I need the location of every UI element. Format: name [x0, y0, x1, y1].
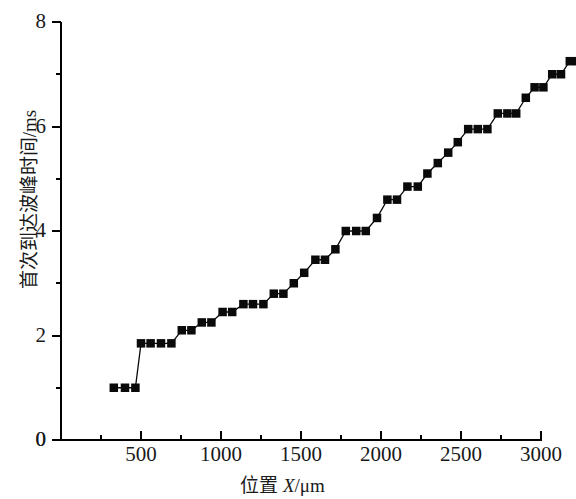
data-point	[342, 227, 351, 236]
data-point	[146, 339, 155, 348]
data-point	[393, 195, 402, 204]
data-point	[187, 326, 196, 335]
data-point	[414, 182, 423, 191]
data-point	[566, 57, 575, 66]
data-point	[311, 255, 320, 263]
data-point	[483, 125, 492, 134]
data-point	[464, 125, 473, 134]
data-point	[530, 83, 539, 92]
data-point	[239, 300, 248, 309]
data-point	[270, 289, 279, 298]
data-point	[198, 318, 207, 327]
data-point	[279, 289, 288, 298]
data-point	[290, 279, 299, 288]
data-point	[373, 214, 382, 223]
data-point	[228, 308, 237, 317]
data-point	[403, 182, 412, 191]
data-point	[137, 339, 146, 348]
data-point	[207, 318, 216, 327]
data-point	[454, 138, 463, 147]
data-point	[539, 83, 548, 92]
data-point	[444, 148, 453, 157]
data-point	[503, 109, 512, 118]
data-point	[548, 70, 557, 79]
data-point	[110, 384, 119, 393]
data-point	[331, 245, 340, 254]
data-point	[362, 227, 371, 236]
data-point	[259, 300, 268, 309]
series-markers	[110, 57, 576, 392]
data-point	[121, 384, 130, 393]
data-point	[178, 326, 187, 335]
data-point	[423, 169, 432, 178]
data-point	[512, 109, 521, 118]
data-point	[300, 269, 309, 278]
data-point	[522, 94, 531, 103]
data-point	[157, 339, 166, 348]
data-point	[494, 109, 503, 118]
data-point	[321, 255, 330, 263]
data-point	[434, 159, 443, 168]
data-point	[474, 125, 483, 134]
data-point	[218, 308, 227, 317]
data-point	[352, 227, 361, 236]
data-point	[167, 339, 176, 348]
data-point	[249, 300, 258, 309]
data-point	[131, 384, 140, 393]
data-point	[383, 195, 392, 204]
data-point	[557, 70, 566, 79]
